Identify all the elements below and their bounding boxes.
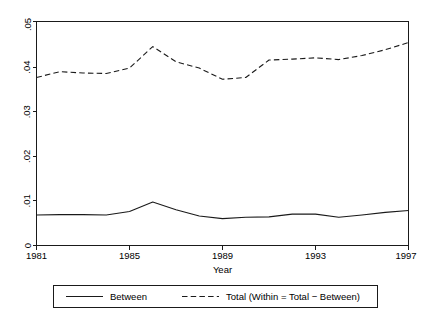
y-axis-ticks — [33, 22, 37, 246]
x-tick-label-1993: 1993 — [305, 250, 326, 261]
x-tick-label-1997: 1997 — [395, 250, 416, 261]
x-axis-title: Year — [213, 264, 232, 275]
x-axis-tick-labels: 1981 1985 1989 1993 1997 — [26, 250, 417, 261]
x-axis-ticks — [37, 246, 409, 250]
chart-figure: 0 .01 .02 .03 .04 .05 1981 1985 1989 199… — [0, 0, 427, 322]
chart-legend: Between Total (Within = Total − Between) — [54, 286, 378, 308]
y-tick-label-01: .01 — [22, 194, 33, 207]
plot-frame — [37, 22, 409, 246]
x-tick-label-1981: 1981 — [26, 250, 47, 261]
legend-label-total: Total (Within = Total − Between) — [226, 291, 360, 302]
series-line-total — [37, 43, 409, 80]
x-tick-label-1985: 1985 — [119, 250, 140, 261]
y-axis-tick-labels: 0 .01 .02 .03 .04 .05 — [22, 18, 33, 248]
y-tick-label-05: .05 — [22, 18, 33, 31]
y-tick-label-04: .04 — [22, 60, 33, 73]
series-line-between — [37, 202, 409, 219]
legend-label-between: Between — [110, 291, 147, 302]
x-tick-label-1989: 1989 — [212, 250, 233, 261]
y-tick-label-03: .03 — [22, 105, 33, 118]
y-tick-label-0: 0 — [22, 243, 33, 248]
y-tick-label-02: .02 — [22, 150, 33, 163]
line-chart: 0 .01 .02 .03 .04 .05 1981 1985 1989 199… — [0, 0, 427, 322]
